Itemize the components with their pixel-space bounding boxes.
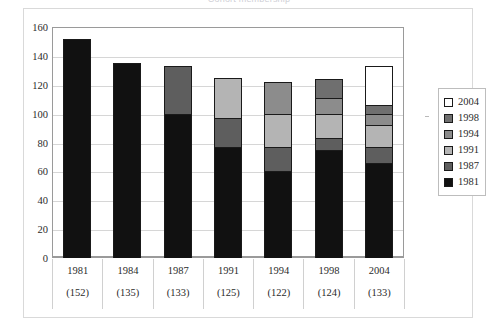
- stacked-bar[interactable]: [164, 66, 192, 258]
- legend-label: 1998: [458, 110, 479, 126]
- x-axis-cell: 1994(122): [253, 259, 303, 309]
- legend-swatch-icon: [444, 98, 453, 107]
- bar-slot: [203, 27, 253, 258]
- bar-segment-1994[interactable]: [365, 114, 393, 126]
- legend-item[interactable]: 1991: [444, 142, 479, 158]
- bar-segment-1994[interactable]: [315, 98, 343, 114]
- x-axis-year-label: 2004: [369, 264, 390, 278]
- bar-slot: [153, 27, 203, 258]
- x-axis-cell: 1981(152): [52, 259, 102, 309]
- legend-label: 2004: [458, 94, 479, 110]
- legend-item[interactable]: 1987: [444, 158, 479, 174]
- x-axis-total-label: (152): [66, 286, 89, 300]
- legend-swatch-icon: [444, 162, 453, 171]
- bar-segment-1991[interactable]: [365, 125, 393, 147]
- legend-swatch-icon: [444, 130, 453, 139]
- bar-segment-1998[interactable]: [315, 79, 343, 98]
- x-axis-total-label: (133): [368, 286, 391, 300]
- x-axis-year-label: 1998: [319, 264, 340, 278]
- y-axis-tick-label: 20: [8, 224, 48, 235]
- bar-segment-1981[interactable]: [164, 114, 192, 258]
- bar-segment-1998[interactable]: [365, 105, 393, 114]
- x-axis-table-right-border: [404, 259, 405, 309]
- x-axis-label-table: 1981(152)1984(135)1987(133)1991(125)1994…: [52, 259, 404, 309]
- legend-swatch-icon: [444, 114, 453, 123]
- stacked-bar[interactable]: [365, 66, 393, 258]
- legend-item[interactable]: 1998: [444, 110, 479, 126]
- bar-segment-1981[interactable]: [365, 163, 393, 258]
- legend-item[interactable]: 2004: [444, 94, 479, 110]
- axis-stray-tick: [425, 116, 429, 117]
- bar-slot: [52, 27, 102, 258]
- bar-segment-1987[interactable]: [315, 138, 343, 150]
- bar-segment-1981[interactable]: [264, 171, 292, 258]
- x-axis-year-label: 1994: [268, 264, 289, 278]
- x-axis-cell: 1991(125): [203, 259, 253, 309]
- chart-title: Cohort membership: [0, 0, 498, 4]
- y-axis-tick-label: 40: [8, 195, 48, 206]
- bar-slot: [102, 27, 152, 258]
- bar-segment-1991[interactable]: [214, 78, 242, 118]
- x-axis-total-label: (124): [318, 286, 341, 300]
- stacked-bar[interactable]: [264, 82, 292, 258]
- bar-segment-2004[interactable]: [365, 66, 393, 105]
- bar-segment-1987[interactable]: [264, 147, 292, 172]
- x-axis-cell: 1998(124): [303, 259, 353, 309]
- y-axis-tick-label: 80: [8, 137, 48, 148]
- x-axis-year-label: 1987: [168, 264, 189, 278]
- bar-slot: [354, 27, 404, 258]
- bar-slot: [303, 27, 353, 258]
- chart-page: Cohort membership 160140120100806040200 …: [0, 0, 498, 331]
- x-axis-cell: 1987(133): [153, 259, 203, 309]
- x-axis-year-label: 1984: [117, 264, 138, 278]
- x-axis-cell: 1984(135): [102, 259, 152, 309]
- x-axis-total-label: (133): [167, 286, 190, 300]
- bar-segment-1981[interactable]: [214, 147, 242, 258]
- legend-label: 1994: [458, 126, 479, 142]
- legend-swatch-icon: [444, 146, 453, 155]
- bar-segment-1981[interactable]: [113, 63, 141, 258]
- stacked-bar[interactable]: [214, 78, 242, 258]
- bar-segment-1981[interactable]: [63, 39, 91, 258]
- bar-segment-1981[interactable]: [315, 150, 343, 258]
- legend-swatch-icon: [444, 178, 453, 187]
- y-axis-tick-label: 140: [8, 50, 48, 61]
- bar-segment-1991[interactable]: [264, 114, 292, 147]
- legend-label: 1981: [458, 174, 479, 190]
- stacked-bar[interactable]: [113, 63, 141, 258]
- y-axis-tick-label: 60: [8, 166, 48, 177]
- stacked-bar[interactable]: [315, 79, 343, 258]
- y-axis: 160140120100806040200: [4, 27, 48, 258]
- bar-slot: [253, 27, 303, 258]
- y-axis-tick-label: 120: [8, 79, 48, 90]
- chart-legend: 200419981994199119871981: [438, 88, 486, 196]
- bar-segment-1987[interactable]: [164, 66, 192, 114]
- bar-segment-1987[interactable]: [214, 118, 242, 147]
- legend-item[interactable]: 1981: [444, 174, 479, 190]
- bar-segment-1987[interactable]: [365, 147, 393, 163]
- x-axis-total-label: (125): [217, 286, 240, 300]
- stacked-bar[interactable]: [63, 39, 91, 258]
- x-axis-year-label: 1991: [218, 264, 239, 278]
- y-axis-tick-label: 160: [8, 22, 48, 33]
- y-axis-tick-label: 0: [8, 253, 48, 264]
- y-axis-tick-label: 100: [8, 108, 48, 119]
- legend-item[interactable]: 1994: [444, 126, 479, 142]
- x-axis-year-label: 1981: [67, 264, 88, 278]
- legend-label: 1991: [458, 142, 479, 158]
- x-axis-cell: 2004(133): [354, 259, 404, 309]
- x-axis-total-label: (135): [117, 286, 140, 300]
- bar-segment-1991[interactable]: [315, 114, 343, 139]
- bar-series-container: [52, 27, 404, 258]
- bar-segment-1994[interactable]: [264, 82, 292, 114]
- x-axis-total-label: (122): [267, 286, 290, 300]
- legend-label: 1987: [458, 158, 479, 174]
